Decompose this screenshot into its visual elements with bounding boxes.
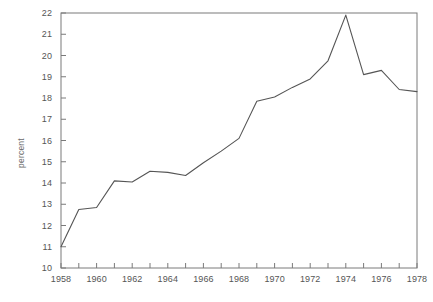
x-tick-label: 1958	[41, 274, 81, 284]
x-tick-label: 1968	[219, 274, 259, 284]
x-tick-label: 1972	[290, 274, 330, 284]
y-tick-label: 10	[26, 263, 52, 273]
x-tick-label: 1978	[397, 274, 433, 284]
y-tick-label: 14	[26, 178, 52, 188]
y-tick-label: 18	[26, 93, 52, 103]
y-axis-ticks	[61, 13, 66, 268]
x-tick-label: 1966	[183, 274, 223, 284]
chart-canvas	[0, 0, 433, 302]
plot-frame	[61, 13, 417, 268]
y-tick-label: 16	[26, 136, 52, 146]
x-tick-label: 1970	[255, 274, 295, 284]
x-tick-label: 1964	[148, 274, 188, 284]
y-tick-label: 11	[26, 242, 52, 252]
x-tick-label: 1974	[326, 274, 366, 284]
y-tick-label: 17	[26, 114, 52, 124]
y-tick-label: 13	[26, 199, 52, 209]
line-chart-figure: percent 10 11 12 13 14 15 16 17 18 19 20…	[0, 0, 433, 302]
x-tick-label: 1962	[112, 274, 152, 284]
figure-caption-partial	[4, 295, 432, 302]
y-tick-label: 12	[26, 221, 52, 231]
x-axis-ticks	[61, 263, 417, 268]
y-tick-label: 21	[26, 29, 52, 39]
y-tick-label: 15	[26, 157, 52, 167]
y-tick-label: 22	[26, 8, 52, 18]
x-tick-label: 1960	[77, 274, 117, 284]
y-axis-label: percent	[16, 118, 26, 188]
y-tick-label: 19	[26, 72, 52, 82]
y-tick-label: 20	[26, 51, 52, 61]
data-series-line	[61, 15, 417, 247]
x-tick-label: 1976	[361, 274, 401, 284]
